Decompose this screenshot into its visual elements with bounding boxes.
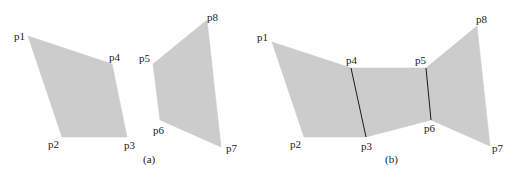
vertex-label-p6: p6 (153, 124, 165, 136)
vertex-label-p5: p5 (139, 52, 151, 64)
quad-3 (426, 26, 490, 146)
vertex-label-p6: p6 (424, 122, 436, 134)
vertex-label-p1: p1 (14, 30, 25, 42)
caption-b: (b) (385, 153, 398, 166)
vertex-label-p7: p7 (226, 142, 238, 154)
vertex-label-p2: p2 (290, 138, 301, 150)
vertex-label-p3: p3 (124, 139, 136, 151)
vertex-label-p4: p4 (109, 51, 121, 63)
vertex-label-p3: p3 (361, 140, 373, 152)
vertex-label-p7: p7 (492, 142, 504, 154)
vertex-label-p2: p2 (48, 138, 59, 150)
vertex-label-p1: p1 (257, 31, 268, 43)
caption-a: (a) (143, 153, 156, 166)
vertex-label-p4: p4 (346, 54, 358, 66)
panel-a: p1p2p3p4p5p6p7p8 (14, 11, 238, 154)
vertex-label-p8: p8 (476, 13, 488, 25)
vertex-label-p8: p8 (207, 11, 219, 23)
figure: p1p2p3p4p5p6p7p8 p1p2p3p4p5p6p7p8 (a) (b… (0, 0, 514, 181)
vertex-label-p5: p5 (415, 54, 427, 66)
panel-b: p1p2p3p4p5p6p7p8 (257, 13, 504, 154)
